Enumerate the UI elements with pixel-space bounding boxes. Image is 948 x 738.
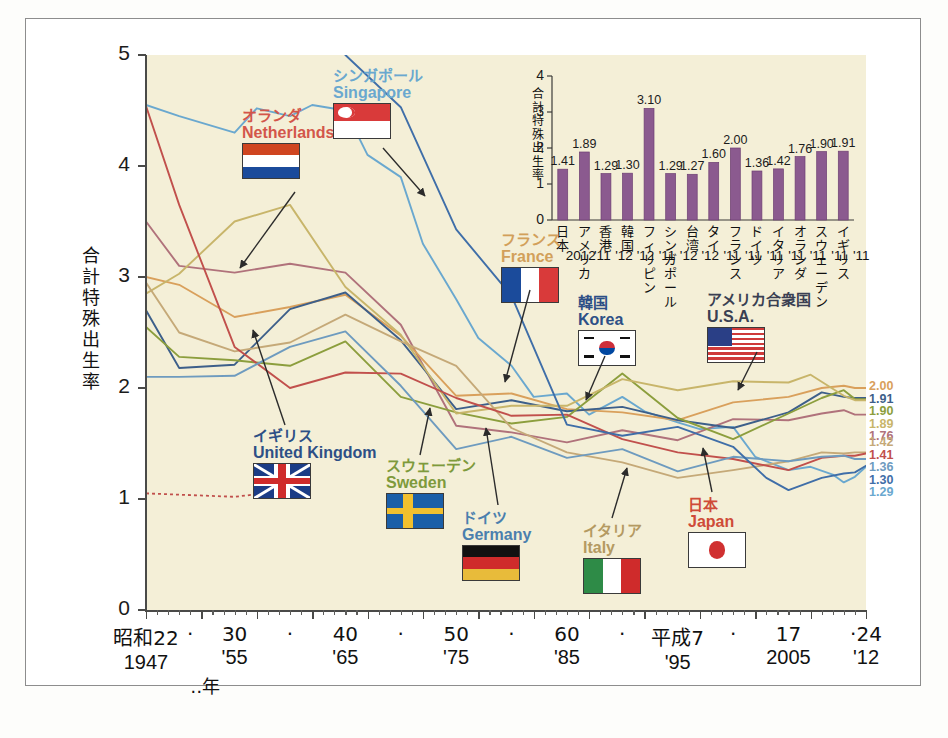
callout-italy: イタリアItaly bbox=[583, 523, 642, 594]
flag-jp-icon bbox=[688, 532, 746, 568]
flag-nl-icon bbox=[242, 143, 300, 179]
flag-band bbox=[463, 557, 519, 568]
inset-bar bbox=[623, 173, 633, 220]
flag-band bbox=[584, 559, 603, 593]
callout-label-en: Korea bbox=[578, 311, 636, 328]
x-tick-minor bbox=[268, 610, 269, 615]
x-tick-minor bbox=[434, 610, 435, 615]
x-tick-minor bbox=[157, 610, 158, 615]
flag-band bbox=[621, 559, 640, 593]
callout-uk: イギリスUnited Kingdom bbox=[253, 428, 377, 499]
x-tick-western: '75 bbox=[411, 646, 501, 669]
x-tick-major bbox=[368, 610, 369, 619]
x-tick-minor bbox=[512, 610, 513, 615]
x-tick-western: '85 bbox=[522, 646, 612, 669]
inset-bar bbox=[558, 169, 568, 220]
x-tick-minor bbox=[489, 610, 490, 615]
end-value-label: 1.29 bbox=[869, 485, 893, 499]
x-tick-minor bbox=[656, 610, 657, 615]
x-tick-minor bbox=[844, 610, 845, 615]
x-tick-western: '65 bbox=[300, 646, 390, 669]
x-tick-minor bbox=[456, 610, 457, 615]
flag-cross bbox=[278, 464, 287, 498]
inset-y-tick-label: 1 bbox=[530, 175, 544, 191]
x-tick-minor bbox=[445, 610, 446, 615]
x-tick-minor bbox=[500, 610, 501, 615]
flag-stripe bbox=[708, 352, 764, 354]
x-tick-minor bbox=[777, 610, 778, 615]
x-tick-minor bbox=[689, 610, 690, 615]
flag-us-icon bbox=[707, 327, 765, 363]
x-tick-minor bbox=[356, 610, 357, 615]
callout-label-en: Italy bbox=[583, 539, 642, 556]
x-tick-minor bbox=[390, 610, 391, 615]
inset-bar-value: 1.30 bbox=[611, 158, 645, 172]
x-tick-major bbox=[478, 610, 479, 619]
callout-label-jp: アメリカ合衆国 bbox=[707, 292, 811, 308]
y-tick bbox=[138, 54, 146, 56]
flag-cross bbox=[403, 494, 413, 528]
inset-bar bbox=[730, 148, 740, 220]
x-tick-minor bbox=[788, 610, 789, 615]
flag-trigram bbox=[620, 355, 630, 357]
x-tick-minor bbox=[678, 610, 679, 615]
flag-crescent bbox=[338, 107, 355, 117]
flag-stripe bbox=[708, 347, 764, 349]
x-tick-minor bbox=[323, 610, 324, 615]
x-tick-major bbox=[534, 610, 535, 619]
x-tick-major bbox=[644, 610, 645, 619]
x-tick-minor bbox=[179, 610, 180, 615]
inset-bar bbox=[709, 162, 719, 220]
x-tick-minor bbox=[722, 610, 723, 615]
x-tick-minor bbox=[523, 610, 524, 615]
callout-label-jp: フランス bbox=[501, 232, 561, 248]
y-tick bbox=[138, 609, 146, 611]
inset-category-label: ス ウ ェ ー デ ン bbox=[815, 225, 829, 309]
flag-cross bbox=[387, 508, 443, 515]
flag-band bbox=[463, 546, 519, 557]
flag-band bbox=[539, 268, 558, 302]
y-tick-label: 5 bbox=[100, 41, 130, 65]
flag-band bbox=[243, 167, 299, 178]
flag-kr-icon bbox=[578, 330, 636, 366]
flag-canton bbox=[708, 328, 732, 346]
x-tick-major bbox=[312, 610, 313, 619]
x-tick-minor bbox=[290, 610, 291, 615]
x-tick-western: 1947 bbox=[101, 651, 191, 674]
x-tick-minor bbox=[345, 610, 346, 615]
x-tick-minor bbox=[600, 610, 601, 615]
x-tick-major bbox=[866, 610, 867, 619]
flag-gb-icon bbox=[253, 463, 311, 499]
callout-label-en: Germany bbox=[462, 526, 531, 543]
x-tick-minor bbox=[667, 610, 668, 615]
y-tick bbox=[138, 498, 146, 500]
inset-bar bbox=[752, 171, 762, 220]
flag-se-icon bbox=[386, 493, 444, 529]
flag-it-icon bbox=[583, 558, 641, 594]
callout-label-jp: イタリア bbox=[583, 523, 642, 539]
x-tick-era: ·24 bbox=[821, 622, 911, 646]
callout-label-en: Netherlands bbox=[242, 124, 334, 141]
inset-bar bbox=[774, 169, 784, 220]
x-tick-minor bbox=[412, 610, 413, 615]
callout-label-jp: ドイツ bbox=[462, 510, 531, 526]
x-tick-label: 172005 bbox=[743, 622, 833, 669]
flag-trigram bbox=[620, 337, 630, 339]
callout-netherlands: オランダNetherlands bbox=[242, 108, 334, 179]
flag-sg-icon bbox=[333, 103, 391, 139]
x-tick-minor bbox=[633, 610, 634, 615]
callout-label-jp: スウェーデン bbox=[386, 458, 476, 474]
inset-bar-value: 1.41 bbox=[546, 154, 580, 168]
y-tick-label: 2 bbox=[100, 374, 130, 398]
inset-bar-value: 1.91 bbox=[826, 136, 860, 150]
x-tick-minor bbox=[545, 610, 546, 615]
flag-fr-icon bbox=[501, 267, 559, 303]
x-axis-unit-label: ‥年 bbox=[190, 672, 220, 698]
x-tick-major bbox=[257, 610, 258, 619]
flag-band bbox=[243, 155, 299, 166]
flag-de-icon bbox=[462, 545, 520, 581]
flag-band bbox=[521, 268, 540, 302]
x-tick-minor bbox=[301, 610, 302, 615]
x-tick-major bbox=[811, 610, 812, 619]
x-tick-major bbox=[201, 610, 202, 619]
